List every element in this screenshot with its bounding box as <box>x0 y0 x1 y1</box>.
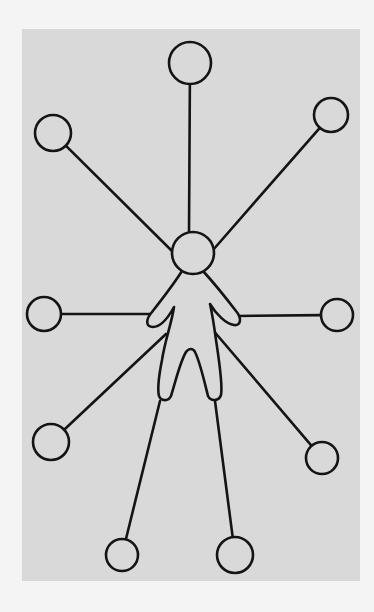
node-circle-mid-right <box>321 299 353 331</box>
node-circle-top <box>169 42 211 84</box>
node-circle-bottom-left <box>106 539 138 571</box>
diagram-stage <box>0 0 374 612</box>
node-circle-bottom-right <box>217 537 253 573</box>
node-circle-top-left <box>35 115 71 151</box>
node-circle-lower-right <box>306 442 338 474</box>
spoke-line-mid-right <box>236 315 321 316</box>
person-head <box>172 232 214 274</box>
node-circle-lower-left <box>33 424 69 460</box>
spoke-line-top <box>189 84 190 232</box>
node-circle-top-right <box>314 98 348 132</box>
node-circle-mid-left <box>27 297 61 331</box>
hub-spoke-diagram <box>0 0 374 612</box>
